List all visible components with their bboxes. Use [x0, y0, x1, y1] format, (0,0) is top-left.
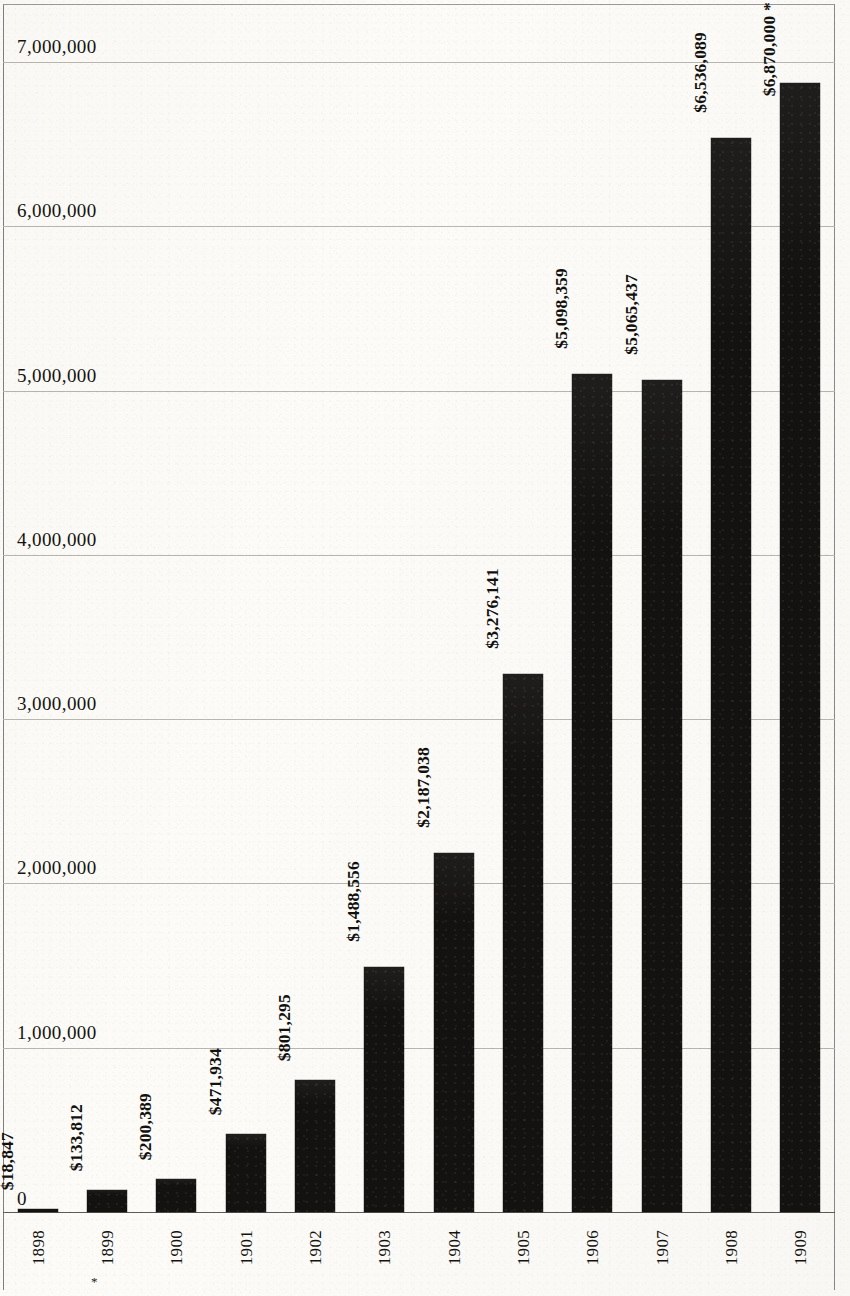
bar-value-label-1900: $200,389	[135, 1093, 156, 1160]
bar-value-label-1903: $1,488,556	[343, 861, 364, 942]
y-axis-tick-label: 1,000,000	[17, 1022, 97, 1044]
x-axis-tick-1906: 1906	[583, 1230, 603, 1265]
bar-value-label-1909: $6,870,000 *	[759, 2, 780, 96]
bar-1907	[642, 380, 682, 1212]
bar-1909	[780, 83, 820, 1212]
bar-1905	[503, 674, 543, 1212]
x-axis-tick-1901: 1901	[237, 1230, 257, 1265]
x-axis-tick-1904: 1904	[445, 1230, 465, 1265]
bar-value-label-1901: $471,934	[205, 1048, 226, 1115]
bar-1901	[226, 1134, 266, 1212]
x-axis-tick-1900: 1900	[167, 1230, 187, 1265]
x-axis-tick-1898: 1898	[29, 1230, 49, 1265]
y-axis-tick-label: 2,000,000	[17, 857, 97, 879]
y-axis-tick-label: 3,000,000	[17, 693, 97, 715]
bar-value-label-1908: $6,536,089	[690, 32, 711, 113]
x-axis-tick-1908: 1908	[722, 1230, 742, 1265]
x-axis-tick-1907: 1907	[653, 1230, 673, 1265]
bar-value-label-1905: $3,276,141	[482, 568, 503, 649]
bar-1904	[434, 853, 474, 1212]
plot-area: 01,000,0002,000,0003,000,0004,000,0005,0…	[3, 0, 835, 1296]
y-axis-tick-label: 7,000,000	[17, 36, 97, 58]
bar-value-label-1899: $133,812	[66, 1104, 87, 1171]
y-axis-tick-label: 6,000,000	[17, 200, 97, 222]
axis-baseline	[3, 1212, 835, 1213]
x-axis-tick-1899: 1899	[98, 1230, 118, 1265]
bar-value-label-1898: $18,847	[0, 1132, 18, 1190]
y-axis-tick-label: 5,000,000	[17, 365, 97, 387]
x-axis-tick-1909: 1909	[791, 1230, 811, 1265]
scanned-page: 01,000,0002,000,0003,000,0004,000,0005,0…	[0, 0, 850, 1296]
x-axis-tick-1903: 1903	[375, 1230, 395, 1265]
bar-1900	[156, 1179, 196, 1212]
x-axis-tick-1902: 1902	[306, 1230, 326, 1265]
bar-value-label-1907: $5,065,437	[621, 274, 642, 355]
bar-1908	[711, 138, 751, 1212]
bar-1902	[295, 1080, 335, 1212]
y-axis-tick-label: 4,000,000	[17, 529, 97, 551]
bar-value-label-1902: $801,295	[274, 994, 295, 1061]
bar-1899	[87, 1190, 127, 1212]
bar-value-label-1904: $2,187,038	[413, 747, 434, 828]
y-axis-tick-label: 0	[17, 1188, 27, 1210]
bar-1906	[572, 374, 612, 1212]
bar-1903	[364, 967, 404, 1212]
bar-value-label-1906: $5,098,359	[551, 268, 572, 349]
x-axis-tick-1905: 1905	[514, 1230, 534, 1265]
footnote-asterisk: *	[91, 1274, 98, 1290]
bar-1898	[18, 1209, 58, 1212]
